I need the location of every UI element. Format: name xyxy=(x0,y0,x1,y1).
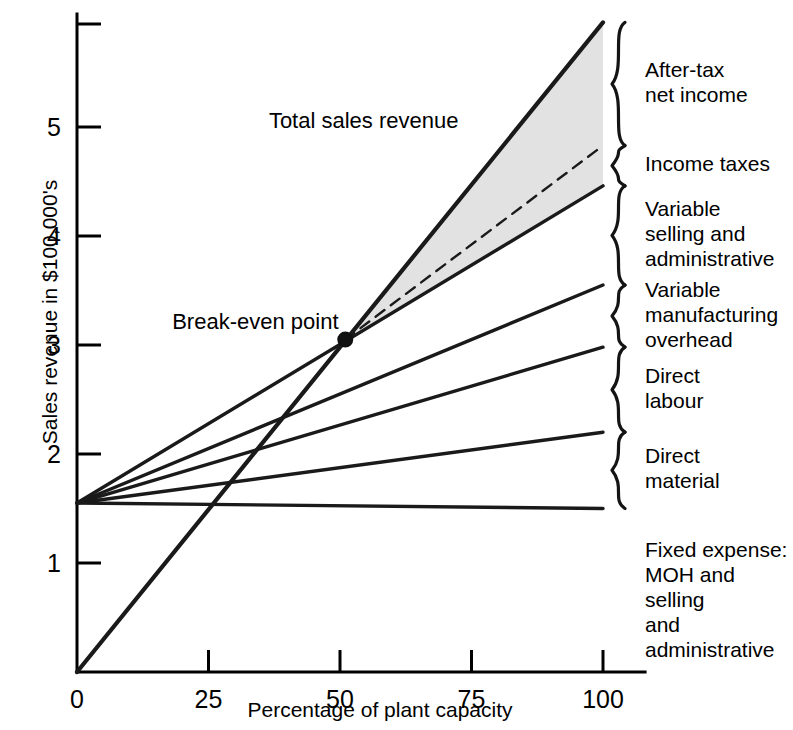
series-line xyxy=(77,503,603,508)
cvp-chart: 12345 0255075100 Sales revenue in $100,0… xyxy=(0,0,793,730)
y-tick-label: 1 xyxy=(47,549,61,577)
annotation-break-even-point: Break-even point xyxy=(172,309,338,335)
annotation-total-sales-revenue: Total sales revenue xyxy=(269,108,459,134)
legend-brace xyxy=(612,146,625,186)
x-tick-label: 0 xyxy=(70,685,84,713)
legend-brace xyxy=(612,22,625,145)
legend-brace xyxy=(612,432,625,508)
legend-brace xyxy=(612,186,625,285)
y-axis-ticks xyxy=(77,24,101,563)
legend-label-after-tax-net-income: After-tax net income xyxy=(645,57,748,107)
legend-label-fixed-expense: Fixed expense: MOH and selling and admin… xyxy=(645,537,793,662)
legend-label-variable-manufacturing-overhead: Variable manufacturing overhead xyxy=(645,277,778,352)
legend-brace xyxy=(612,285,625,347)
y-axis-title: Sales revenue in $100,000's xyxy=(38,112,62,512)
series-line xyxy=(345,146,603,340)
legend-label-direct-labour: Direct labour xyxy=(645,363,703,413)
series-line xyxy=(77,432,603,503)
x-axis-ticks xyxy=(209,650,604,672)
break-even-marker xyxy=(338,333,352,347)
legend-brace xyxy=(612,347,625,432)
legend-label-direct-material: Direct material xyxy=(645,443,720,493)
x-axis-title: Percentage of plant capacity xyxy=(120,698,640,722)
series-line xyxy=(77,285,603,503)
legend-braces xyxy=(612,22,625,508)
legend-label-income-taxes: Income taxes xyxy=(645,151,770,176)
series-line xyxy=(77,347,603,503)
legend-label-variable-selling-admin: Variable selling and administrative xyxy=(645,196,775,271)
